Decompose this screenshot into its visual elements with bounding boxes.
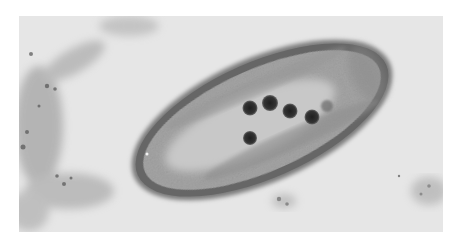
micrograph-image <box>19 16 443 232</box>
micrograph-svg <box>19 16 443 232</box>
